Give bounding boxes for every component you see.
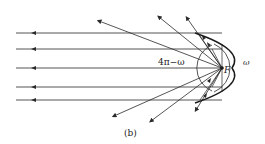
label-4pi-minus-omega: 4π−ω bbox=[158, 57, 185, 67]
arrowhead-icon bbox=[31, 98, 36, 102]
arrowhead-icon bbox=[31, 47, 36, 51]
arrowhead-icon bbox=[31, 66, 36, 70]
figure-caption: (b) bbox=[124, 128, 137, 138]
label-focus: F bbox=[223, 65, 231, 75]
label-omega: ω bbox=[243, 58, 250, 67]
arrowhead-icon bbox=[31, 85, 36, 89]
ray-arrowheads bbox=[31, 31, 36, 102]
parabolic-reflector-diagram: 4π−ω ω F (b) bbox=[0, 0, 265, 144]
arrowhead-icon bbox=[31, 31, 36, 35]
